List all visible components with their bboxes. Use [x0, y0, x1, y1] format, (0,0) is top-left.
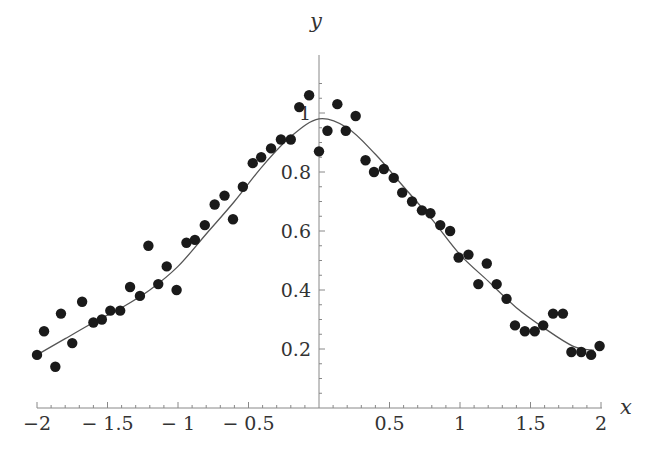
data-point [56, 308, 66, 318]
data-point [50, 362, 60, 372]
data-point [538, 320, 548, 330]
data-point [77, 297, 87, 307]
data-point [276, 134, 286, 144]
data-point [491, 279, 501, 289]
data-point [228, 214, 238, 224]
data-point [190, 235, 200, 245]
data-point [407, 196, 417, 206]
data-point [322, 126, 332, 136]
x-tick-label: − 0.5 [222, 412, 274, 434]
x-axis-label: x [620, 395, 632, 419]
data-point [520, 326, 530, 336]
y-tick-label: 0.8 [281, 161, 311, 183]
data-point [209, 199, 219, 209]
data-point [350, 111, 360, 121]
x-tick-label: − 1 [161, 412, 195, 434]
data-point [530, 326, 540, 336]
data-point [425, 208, 435, 218]
data-point [39, 326, 49, 336]
chart: −2− 1.5− 1− 0.50.511.520.20.40.60.81 x y [0, 0, 654, 463]
data-point [294, 102, 304, 112]
data-point [360, 155, 370, 165]
data-point [248, 158, 258, 168]
data-point [97, 314, 107, 324]
x-tick-label: 2 [595, 412, 607, 434]
y-tick-label: 0.6 [281, 220, 311, 242]
data-point [256, 152, 266, 162]
data-point [473, 279, 483, 289]
data-point [576, 347, 586, 357]
y-axis-label: y [309, 9, 323, 33]
data-point [397, 187, 407, 197]
data-point [115, 305, 125, 315]
data-point [586, 350, 596, 360]
data-point [501, 294, 511, 304]
data-point [379, 164, 389, 174]
data-point [566, 347, 576, 357]
x-tick-label: 1.5 [515, 412, 545, 434]
data-point [482, 258, 492, 268]
data-point [266, 143, 276, 153]
data-point [219, 190, 229, 200]
data-point [32, 350, 42, 360]
data-point [453, 252, 463, 262]
data-point [171, 285, 181, 295]
data-point [594, 341, 604, 351]
data-point [125, 282, 135, 292]
data-point [341, 126, 351, 136]
x-tick-label: −2 [23, 412, 51, 434]
data-point [332, 99, 342, 109]
data-point [369, 167, 379, 177]
data-point [435, 220, 445, 230]
data-point [162, 261, 172, 271]
x-tick-label: 0.5 [374, 412, 404, 434]
data-point [558, 308, 568, 318]
data-point [238, 182, 248, 192]
data-point [548, 308, 558, 318]
data-point [389, 173, 399, 183]
data-point [463, 249, 473, 259]
data-points [32, 90, 605, 372]
data-point [314, 146, 324, 156]
data-point [67, 338, 77, 348]
data-point [510, 320, 520, 330]
x-tick-label: − 1.5 [81, 412, 133, 434]
data-point [135, 291, 145, 301]
data-point [445, 226, 455, 236]
data-point [105, 305, 115, 315]
data-point [143, 241, 153, 251]
data-point [286, 134, 296, 144]
data-point [200, 220, 210, 230]
data-point [153, 279, 163, 289]
y-tick-label: 0.2 [281, 338, 311, 360]
data-point [304, 90, 314, 100]
y-tick-label: 0.4 [281, 279, 311, 301]
x-tick-label: 1 [454, 412, 466, 434]
